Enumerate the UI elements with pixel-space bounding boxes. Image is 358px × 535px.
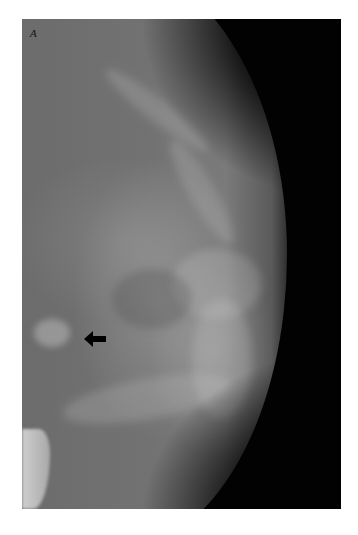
background-region xyxy=(22,19,341,219)
fatty-region xyxy=(112,269,192,329)
mass-lesion xyxy=(34,319,70,347)
mammogram-image: A xyxy=(22,19,341,509)
panel-label: A xyxy=(30,27,37,39)
arrow-left-icon xyxy=(84,331,106,347)
background-region xyxy=(22,349,341,509)
